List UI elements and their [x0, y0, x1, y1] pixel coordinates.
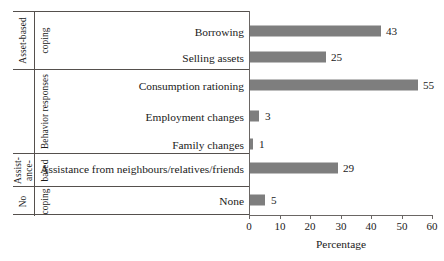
x-axis-tick-label-30: 30: [336, 220, 347, 232]
plot-area: 43 25 55 3 1 29 5 0 10 20 30 40 50 60 Pe…: [0, 0, 444, 261]
bar-value-consumption-rationing: 55: [423, 79, 434, 91]
x-axis-tick: [402, 215, 403, 219]
x-axis-tick-label-20: 20: [305, 220, 316, 232]
bar-value-selling-assets: 25: [331, 51, 342, 63]
chart-figure: Asset-based coping Behavior responses As…: [0, 0, 444, 261]
bar-value-family-changes: 1: [259, 138, 265, 150]
bar-none: [250, 195, 265, 206]
x-axis-tick: [280, 215, 281, 219]
x-axis-tick-label-0: 0: [246, 220, 252, 232]
bar-employment-changes: [250, 111, 259, 122]
bar-assistance: [250, 163, 338, 174]
x-axis-tick: [249, 215, 250, 219]
x-axis-tick: [310, 215, 311, 219]
bar-selling-assets: [250, 52, 326, 63]
bar-family-changes: [250, 139, 253, 150]
x-axis-tick-label-60: 60: [427, 220, 438, 232]
bar-value-borrowing: 43: [386, 25, 397, 37]
x-axis-tick: [432, 215, 433, 219]
x-axis-title: Percentage: [249, 238, 433, 250]
x-axis-tick-label-50: 50: [397, 220, 408, 232]
bar-consumption-rationing: [250, 80, 418, 91]
bar-value-assistance: 29: [343, 162, 354, 174]
bar-value-employment-changes: 3: [265, 110, 271, 122]
bar-value-none: 5: [271, 194, 277, 206]
x-axis-tick: [371, 215, 372, 219]
bar-borrowing: [250, 26, 381, 37]
x-axis-tick-label-40: 40: [366, 220, 377, 232]
x-axis-tick: [341, 215, 342, 219]
x-axis-tick-label-10: 10: [275, 220, 286, 232]
